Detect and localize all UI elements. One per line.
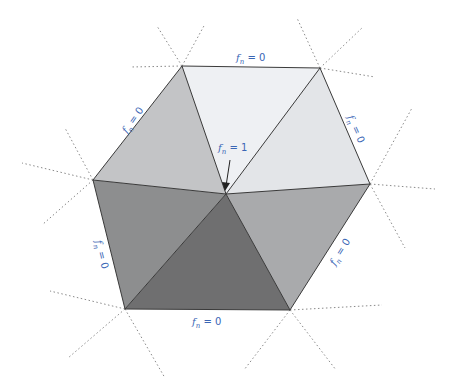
edge-label-lower-left: fn = 0 <box>90 238 111 271</box>
dotted-line <box>65 128 93 180</box>
dotted-line <box>50 291 125 309</box>
hexagon-diagram: fn = 1 fn = 0 fn = 0 fn = 0 fn = 0 fn = … <box>0 0 454 390</box>
dotted-line <box>320 68 375 77</box>
triangles <box>93 66 370 310</box>
dotted-line <box>42 180 93 225</box>
edge-label-bottom: fn = 0 <box>191 316 221 330</box>
dotted-line <box>125 309 165 378</box>
dotted-line <box>297 18 320 68</box>
dotted-line <box>320 27 363 68</box>
edge-label-top: fn = 0 <box>235 52 265 66</box>
dotted-line <box>157 26 182 66</box>
dotted-line <box>370 108 412 184</box>
dotted-line <box>370 184 405 248</box>
dotted-line <box>68 309 125 358</box>
dotted-line <box>22 163 93 180</box>
dotted-line <box>244 310 290 370</box>
dotted-line <box>370 184 435 189</box>
dotted-line <box>290 305 382 310</box>
dotted-line <box>130 66 182 67</box>
dotted-line <box>182 24 205 66</box>
dotted-line <box>290 310 336 370</box>
